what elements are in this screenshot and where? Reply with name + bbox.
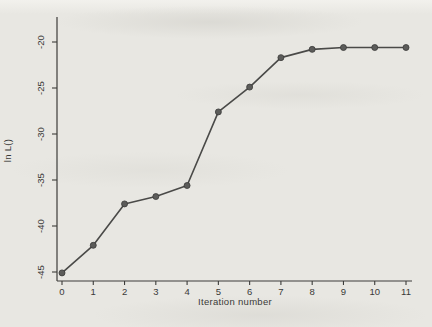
- data-point-marker: [309, 46, 315, 52]
- data-point-marker: [278, 55, 284, 61]
- x-axis-title: Iteration number: [160, 296, 310, 307]
- y-axis-title: ln L(): [2, 116, 13, 186]
- y-tick-label: -35: [35, 173, 46, 187]
- x-tick-label: 9: [341, 286, 346, 297]
- scanned-figure-page: -45-40-35-30-25-2001234567891011 Iterati…: [0, 0, 432, 327]
- data-line: [62, 48, 406, 273]
- x-tick-label: 0: [59, 286, 64, 297]
- y-tick-label: -45: [35, 265, 46, 279]
- data-point-marker: [59, 270, 65, 276]
- data-point-marker: [90, 242, 96, 248]
- data-point-marker: [372, 45, 378, 51]
- data-point-marker: [340, 45, 346, 51]
- y-tick-label: -25: [35, 81, 46, 95]
- y-tick-label: -30: [35, 127, 46, 141]
- x-tick-label: 3: [153, 286, 158, 297]
- data-point-marker: [184, 183, 190, 189]
- x-tick-label: 8: [310, 286, 315, 297]
- x-tick-label: 10: [369, 286, 380, 297]
- data-point-marker: [153, 194, 159, 200]
- data-point-marker: [215, 109, 221, 115]
- x-tick-label: 2: [122, 286, 127, 297]
- data-point-marker: [247, 84, 253, 90]
- line-chart: -45-40-35-30-25-2001234567891011: [0, 0, 432, 327]
- data-point-marker: [403, 45, 409, 51]
- x-tick-label: 1: [91, 286, 96, 297]
- y-tick-label: -40: [35, 219, 46, 233]
- x-tick-label: 11: [401, 286, 411, 297]
- data-point-marker: [122, 201, 128, 207]
- y-tick-label: -20: [35, 35, 46, 49]
